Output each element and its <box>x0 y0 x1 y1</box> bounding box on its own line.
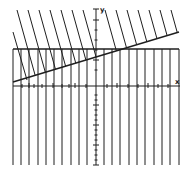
diagonal-hatch-line <box>116 10 127 48</box>
diagonal-hatch-line <box>160 10 167 36</box>
x-axis-label: x <box>175 78 180 86</box>
diagonal-hatch-line <box>138 10 147 42</box>
diagonal-hatch-line <box>127 10 137 45</box>
diagonal-hatch-line <box>17 10 35 75</box>
y-axis-label: y <box>100 6 105 14</box>
diagonal-hatch-line <box>149 10 157 39</box>
diagonal-hatch-line <box>171 10 177 33</box>
inequality-graph: y x <box>0 0 187 170</box>
diagonal-hatch-line <box>61 10 76 63</box>
diagonal-hatch-line <box>28 10 45 72</box>
diagonal-hatch-line <box>83 10 96 57</box>
diagonal-hatch-line <box>105 10 116 51</box>
